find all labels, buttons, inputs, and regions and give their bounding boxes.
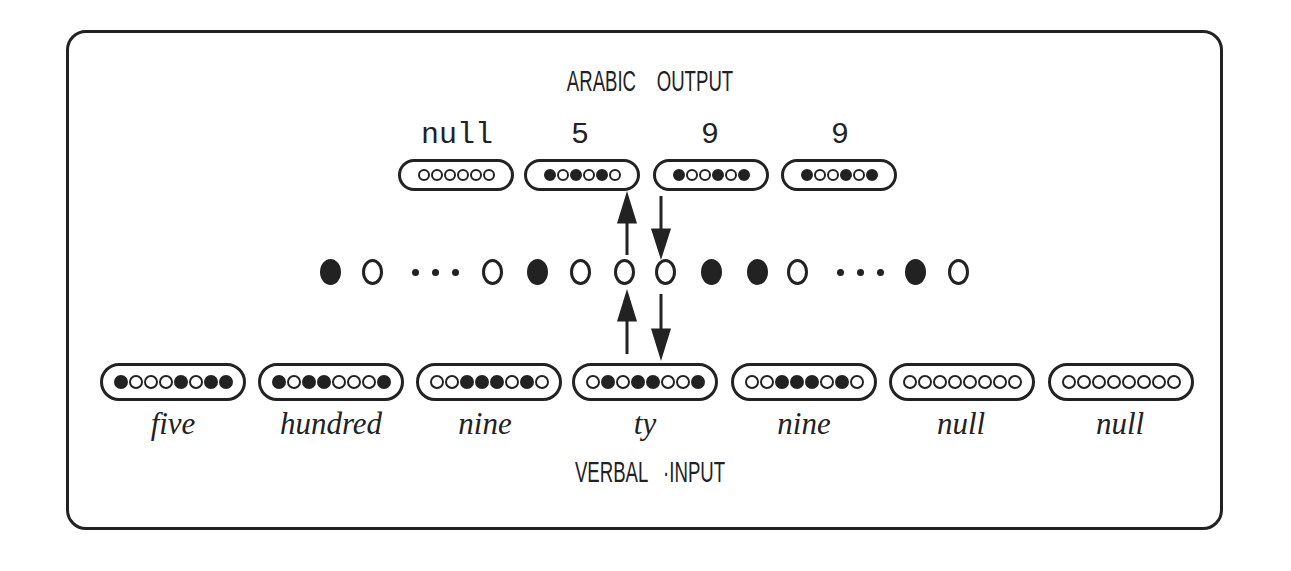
input-label-1: hundred: [251, 406, 411, 442]
active-unit-icon: [631, 375, 645, 389]
active-unit-icon: [204, 375, 218, 389]
input-unit-pill: [889, 363, 1035, 401]
active-unit-icon: [114, 375, 128, 389]
inactive-unit-icon: [933, 375, 947, 389]
arrow-down-icon: [653, 330, 669, 356]
inactive-unit-icon: [159, 375, 173, 389]
inactive-unit-icon: [505, 375, 519, 389]
input-unit-pill: [572, 363, 718, 401]
input-label-4: nine: [724, 406, 884, 442]
input-unit-pill: [1048, 363, 1194, 401]
inactive-unit-icon: [918, 375, 932, 389]
inactive-unit-icon: [445, 375, 459, 389]
input-unit-pill: [258, 363, 404, 401]
inactive-unit-icon: [1077, 375, 1091, 389]
inactive-unit-icon: [978, 375, 992, 389]
active-unit-icon: [272, 375, 286, 389]
active-unit-icon: [775, 375, 789, 389]
inactive-unit-icon: [661, 375, 675, 389]
active-unit-icon: [219, 375, 233, 389]
inactive-unit-icon: [287, 375, 301, 389]
inactive-unit-icon: [820, 375, 834, 389]
inactive-unit-icon: [332, 375, 346, 389]
inactive-unit-icon: [189, 375, 203, 389]
active-unit-icon: [835, 375, 849, 389]
input-unit-pill: [416, 363, 562, 401]
active-unit-icon: [377, 375, 391, 389]
inactive-unit-icon: [144, 375, 158, 389]
active-unit-icon: [174, 375, 188, 389]
active-unit-icon: [475, 375, 489, 389]
inactive-unit-icon: [586, 375, 600, 389]
input-label-3: ty: [565, 406, 725, 442]
inactive-unit-icon: [1008, 375, 1022, 389]
inactive-unit-icon: [1062, 375, 1076, 389]
inactive-unit-icon: [676, 375, 690, 389]
inactive-unit-icon: [616, 375, 630, 389]
active-unit-icon: [790, 375, 804, 389]
inactive-unit-icon: [1167, 375, 1181, 389]
inactive-unit-icon: [963, 375, 977, 389]
inactive-unit-icon: [850, 375, 864, 389]
active-unit-icon: [805, 375, 819, 389]
active-unit-icon: [302, 375, 316, 389]
inactive-unit-icon: [1137, 375, 1151, 389]
input-label-0: five: [93, 406, 253, 442]
input-unit-pill: [731, 363, 877, 401]
inactive-unit-icon: [347, 375, 361, 389]
inactive-unit-icon: [362, 375, 376, 389]
input-unit-pill: [100, 363, 246, 401]
inactive-unit-icon: [948, 375, 962, 389]
active-unit-icon: [646, 375, 660, 389]
active-unit-icon: [460, 375, 474, 389]
arrow-up-icon: [619, 294, 635, 320]
inactive-unit-icon: [535, 375, 549, 389]
active-unit-icon: [317, 375, 331, 389]
inactive-unit-icon: [1122, 375, 1136, 389]
arrow-down-icon: [653, 230, 669, 255]
input-label-5: null: [881, 406, 1041, 442]
inactive-unit-icon: [129, 375, 143, 389]
active-unit-icon: [490, 375, 504, 389]
inactive-unit-icon: [903, 375, 917, 389]
input-title: VERBAL ·INPUT: [526, 455, 774, 489]
inactive-unit-icon: [430, 375, 444, 389]
active-unit-icon: [520, 375, 534, 389]
arrow-up-icon: [619, 196, 635, 222]
input-label-6: null: [1040, 406, 1200, 442]
inactive-unit-icon: [745, 375, 759, 389]
active-unit-icon: [601, 375, 615, 389]
inactive-unit-icon: [1152, 375, 1166, 389]
inactive-unit-icon: [1107, 375, 1121, 389]
input-label-2: nine: [405, 406, 565, 442]
active-unit-icon: [691, 375, 705, 389]
inactive-unit-icon: [993, 375, 1007, 389]
inactive-unit-icon: [760, 375, 774, 389]
inactive-unit-icon: [1092, 375, 1106, 389]
